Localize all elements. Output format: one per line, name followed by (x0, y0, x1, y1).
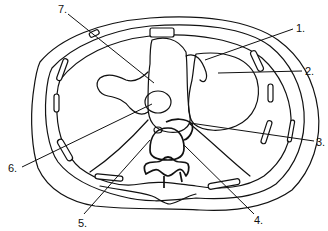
internal-boundary (190, 124, 250, 176)
label-3: 3. (316, 136, 325, 148)
label-7: 7. (58, 3, 67, 15)
spine (145, 119, 193, 188)
thorax-cross-section-diagram: 1. 2. 3. 4. 5. 6. 7. (0, 0, 328, 231)
lobed-vessel (97, 72, 148, 114)
mediastinum (148, 38, 190, 132)
internal-boundary (90, 120, 148, 172)
label-2: 2. (305, 65, 314, 77)
label-1: 1. (296, 22, 305, 34)
heart-septum (186, 55, 207, 82)
label-5: 5. (78, 217, 87, 229)
ribs (54, 29, 295, 190)
label-4: 4. (254, 214, 263, 226)
outer-body-contour (32, 17, 319, 211)
sternum (150, 28, 174, 37)
heart-ventricle (189, 53, 259, 130)
label-6: 6. (8, 162, 17, 174)
round-vessel (145, 91, 171, 113)
leader-lines (22, 14, 314, 214)
